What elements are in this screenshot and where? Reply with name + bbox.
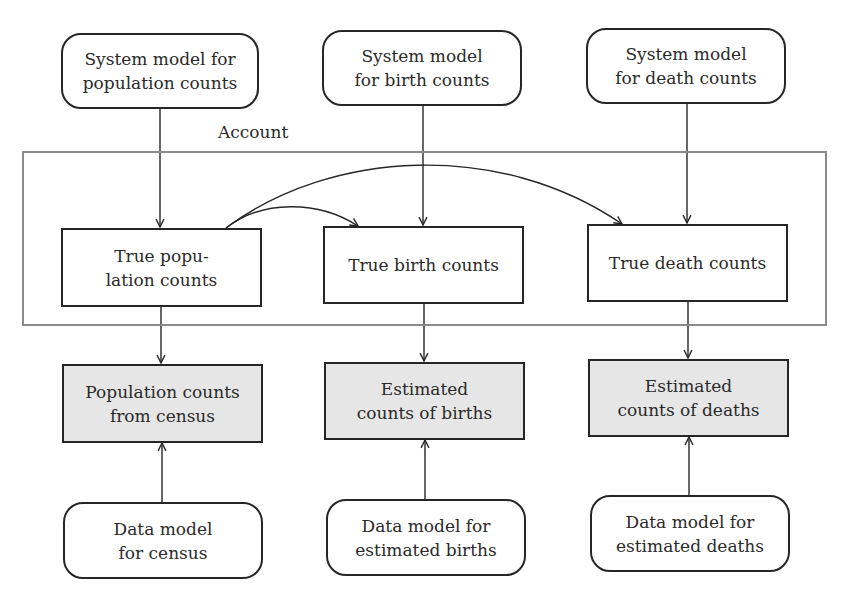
system-model-births: System model for birth counts [322, 30, 522, 106]
estimated-counts-of-deaths: Estimated counts of deaths [588, 359, 789, 437]
data-model-census: Data model for census [63, 502, 263, 579]
true-death-counts: True death counts [587, 224, 788, 302]
account-label: Account [218, 122, 288, 142]
system-model-population: System model for population counts [61, 33, 259, 109]
population-counts-from-census: Population counts from census [62, 364, 263, 443]
account-diagram: Account System model for population coun… [0, 0, 842, 601]
data-model-estimated-births: Data model for estimated births [326, 499, 526, 576]
system-model-deaths: System model for death counts [586, 28, 786, 104]
data-model-estimated-deaths: Data model for estimated deaths [590, 495, 790, 572]
true-birth-counts: True birth counts [323, 226, 524, 304]
estimated-counts-of-births: Estimated counts of births [324, 362, 525, 440]
true-population-counts: True popu- lation counts [61, 228, 262, 307]
